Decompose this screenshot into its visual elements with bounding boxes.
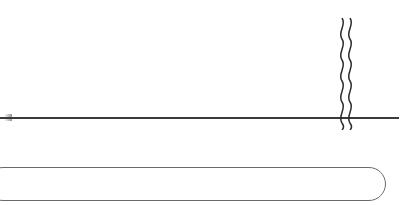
axis-break-wave-icon bbox=[335, 18, 357, 130]
stacked-bar-chart bbox=[0, 0, 407, 205]
decorative-pill-outline bbox=[0, 167, 386, 201]
x-axis-left-taper bbox=[0, 114, 12, 121]
